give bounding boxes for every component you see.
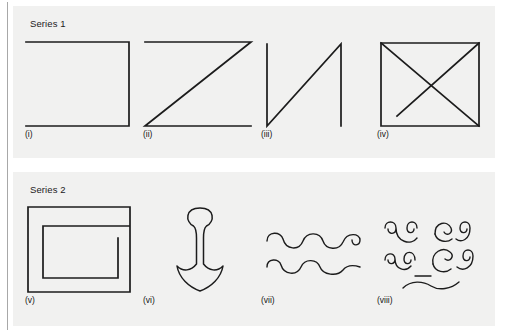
figure-v-label: (v) bbox=[25, 295, 35, 305]
figure-iv: (iv) bbox=[375, 32, 493, 144]
figure-viii: (viii) bbox=[375, 198, 493, 310]
figure-vi-artwork bbox=[141, 198, 259, 295]
figure-iii: (iii) bbox=[259, 32, 377, 144]
figure-ii: (ii) bbox=[141, 32, 259, 144]
panel-title-series-1: Series 1 bbox=[30, 18, 66, 29]
figure-iv-label: (iv) bbox=[377, 129, 389, 139]
figure-vi: (vi) bbox=[141, 198, 259, 310]
figure-vii-artwork bbox=[259, 198, 377, 295]
figure-viii-label: (viii) bbox=[377, 295, 393, 305]
left-margin-rule bbox=[7, 2, 8, 330]
figure-viii-artwork bbox=[375, 198, 493, 295]
panel-series-2: Series 2 (v) (vi) bbox=[13, 172, 495, 326]
panel-series-1: Series 1 (i) (ii) bbox=[13, 6, 495, 158]
figure-iii-artwork bbox=[259, 32, 377, 129]
figure-ii-artwork bbox=[141, 32, 259, 129]
figure-root: Series 1 (i) (ii) bbox=[0, 0, 510, 332]
figure-i: (i) bbox=[23, 32, 141, 144]
figure-vii-label: (vii) bbox=[261, 295, 275, 305]
figure-i-label: (i) bbox=[25, 129, 33, 139]
figure-v-artwork bbox=[23, 198, 141, 295]
panel-title-series-2: Series 2 bbox=[30, 184, 66, 195]
figure-iv-artwork bbox=[375, 32, 493, 129]
figure-vi-label: (vi) bbox=[143, 295, 155, 305]
figure-iii-label: (iii) bbox=[261, 129, 272, 139]
figure-vii: (vii) bbox=[259, 198, 377, 310]
figure-v: (v) bbox=[23, 198, 141, 310]
figure-ii-label: (ii) bbox=[143, 129, 152, 139]
figure-i-artwork bbox=[23, 32, 141, 129]
